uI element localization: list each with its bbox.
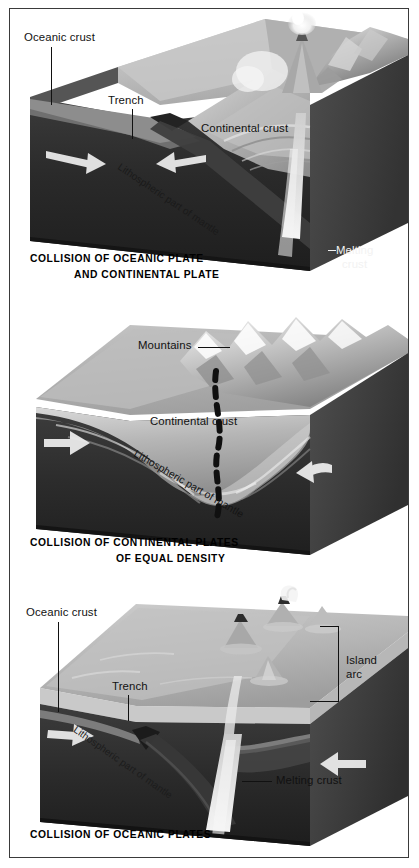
eruption-plume [281,586,298,602]
island-arc-bracket-spine [338,626,339,702]
label-mountains: Mountains [138,339,191,351]
label-oceanic-crust: Oceanic crust [24,31,95,43]
eruption-plume-core [292,11,304,25]
leader-trench [128,695,129,721]
caption-panel-2-line2: OF EQUAL DENSITY [116,551,239,567]
caption-panel-1: COLLISION OF OCEANIC PLATE AND CONTINENT… [30,251,219,283]
label-melting-crust-line1: Melting [336,244,373,256]
leader-oceanic-crust [58,622,59,712]
leader-melting-crust [328,250,336,251]
figure-root: Oceanic crust Trench Continental crust L… [0,0,419,868]
ash-cloud-2 [232,66,264,92]
label-trench: Trench [108,94,144,106]
panel-oceanic-continental: Oceanic crust Trench Continental crust L… [10,9,410,297]
label-continental-crust: Continental crust [201,122,288,134]
label-trench: Trench [112,680,148,692]
leader-mountains [198,347,230,348]
label-continental-crust: Continental crust [150,415,237,427]
island-arc-bracket-top [320,626,339,627]
island-arc-bracket-bottom [310,701,339,702]
panel-continental-continental: Mountains Continental crust Lithospheric… [10,297,410,584]
caption-panel-3-line1: COLLISION OF OCEANIC PLATES [30,829,211,840]
figure-frame: Oceanic crust Trench Continental crust L… [9,8,409,858]
panel-3-illustration [10,584,410,857]
label-melting-crust-line2: crust [342,258,367,270]
caption-panel-2-line1: COLLISION OF CONTINENTAL PLATES [30,537,239,548]
panel-oceanic-oceanic: Oceanic crust Trench Island arc Melting … [10,584,410,857]
volcano-3-base [220,644,262,655]
label-island-arc-line1: Island [346,654,377,666]
caption-panel-1-line2: AND CONTINENTAL PLATE [74,267,219,283]
volcano-2-base [263,622,303,632]
caption-panel-2: COLLISION OF CONTINENTAL PLATES OF EQUAL… [30,535,239,567]
leader-melting-crust [242,781,272,782]
caption-panel-1-line1: COLLISION OF OCEANIC PLATE [30,253,204,264]
leader-oceanic-crust [51,47,52,105]
caption-panel-3: COLLISION OF OCEANIC PLATES [30,827,211,843]
panel-3-scene [10,584,410,857]
leader-trench [132,109,133,139]
label-oceanic-crust: Oceanic crust [26,606,97,618]
label-island-arc-line2: arc [346,668,362,680]
label-melting-crust: Melting crust [276,774,342,786]
